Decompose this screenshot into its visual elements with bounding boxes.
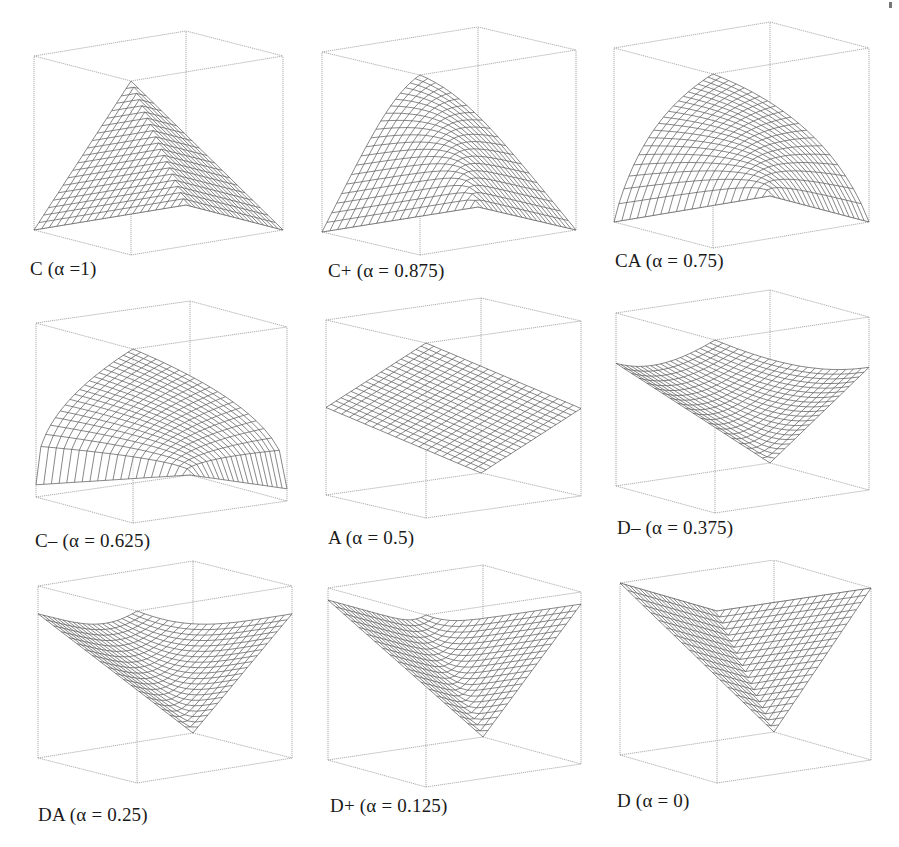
panel-label: C– (α = 0.625) xyxy=(35,530,150,552)
surface-panel-dplus: D+ (α = 0.125) xyxy=(300,560,600,842)
surface-mesh xyxy=(36,349,287,489)
panel-label: D– (α = 0.375) xyxy=(617,517,733,539)
panel-label: C+ (α = 0.875) xyxy=(328,260,445,282)
surface-mesh xyxy=(322,75,576,232)
surface-panel-da: DA (α = 0.25) xyxy=(0,560,300,842)
surface-plot xyxy=(300,0,600,282)
surface-panel-c: C (α =1) xyxy=(0,0,300,282)
panel-label: DA (α = 0.25) xyxy=(38,804,148,826)
panel-label: D (α = 0) xyxy=(617,790,690,812)
surface-mesh xyxy=(38,611,292,733)
surface-plot xyxy=(0,560,300,842)
surface-plot xyxy=(0,0,300,282)
surface-mesh xyxy=(620,583,871,732)
surface-panel-dminus: D– (α = 0.375) xyxy=(600,285,899,567)
panel-label: A (α = 0.5) xyxy=(328,527,414,549)
surface-mesh xyxy=(616,340,869,463)
surface-plot xyxy=(0,285,300,567)
panel-label: CA (α = 0.75) xyxy=(615,250,724,272)
surface-panel-a: A (α = 0.5) xyxy=(300,285,600,567)
surface-mesh xyxy=(328,600,581,737)
surface-panel-cminus: C– (α = 0.625) xyxy=(0,285,300,567)
surface-mesh xyxy=(34,81,283,230)
surface-plot xyxy=(600,0,899,282)
surface-panel-cplus: C+ (α = 0.875) xyxy=(300,0,600,282)
surface-panel-ca: CA (α = 0.75) xyxy=(600,0,899,282)
surface-plot xyxy=(300,285,600,567)
surface-mesh xyxy=(614,74,869,222)
surface-panel-d: D (α = 0) xyxy=(600,560,899,842)
surface-mesh xyxy=(326,343,581,473)
panel-label: C (α =1) xyxy=(30,258,97,280)
panel-label: D+ (α = 0.125) xyxy=(330,795,448,817)
